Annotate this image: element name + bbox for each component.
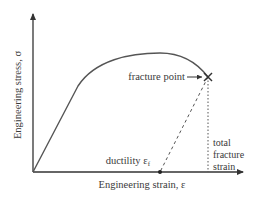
ductility-point (158, 170, 162, 174)
ductility-label-text: ductility ε (106, 155, 149, 166)
total-fracture-strain-line3: strain (213, 161, 235, 172)
fracture-point-label: fracture point (128, 71, 185, 82)
stress-strain-diagram: fracture point ductility εf total fractu… (0, 0, 259, 203)
ductility-subscript: f (148, 160, 151, 168)
total-fracture-strain-line1: total (213, 137, 231, 148)
x-axis-label: Engineering strain, ε (99, 179, 187, 190)
ductility-label: ductility εf (106, 155, 151, 168)
y-axis-label: Engineering stress, σ (12, 51, 23, 140)
total-fracture-strain-line2: fracture (213, 149, 245, 160)
unloading-dashed-line (160, 77, 208, 172)
fracture-marker-icon (204, 73, 212, 81)
